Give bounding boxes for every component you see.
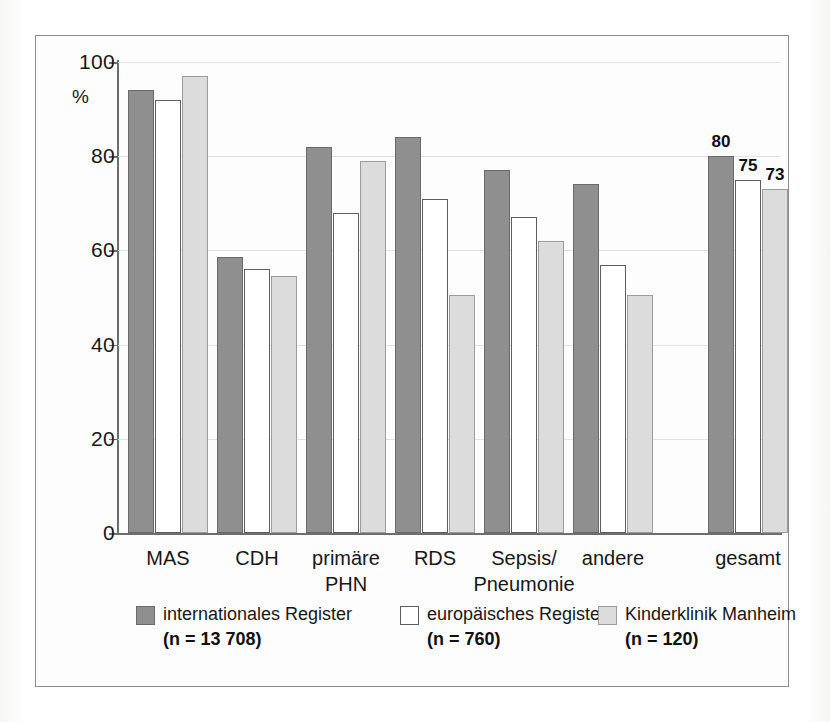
legend-sample-size: (n = 120) <box>625 629 699 650</box>
bar <box>271 276 297 533</box>
legend-label: internationales Register <box>163 604 352 625</box>
y-axis-tick-label: 40 <box>55 333 115 357</box>
x-axis-tick-label: gesamt <box>668 545 828 571</box>
bar <box>182 76 208 533</box>
bar <box>538 241 564 533</box>
bar-value-label: 80 <box>712 132 731 152</box>
bar <box>422 199 448 533</box>
bar <box>155 100 181 533</box>
legend-swatch-icon <box>598 606 617 625</box>
bar <box>762 189 788 533</box>
legend-sample-size: (n = 760) <box>427 629 501 650</box>
bar <box>360 161 386 533</box>
bar <box>395 137 421 533</box>
plot-area: 020406080100 807573 <box>118 62 781 533</box>
legend-label: europäisches Register <box>427 604 606 625</box>
x-axis-line <box>117 533 782 535</box>
y-axis-unit-label: % <box>72 86 89 108</box>
bar <box>573 184 599 533</box>
y-axis-tick-label: 0 <box>55 521 115 545</box>
gridline <box>118 156 781 157</box>
y-axis-tick-label: 100 <box>55 50 115 74</box>
bar <box>484 170 510 533</box>
y-axis-tick-label: 20 <box>55 427 115 451</box>
y-axis-tick-label: 60 <box>55 238 115 262</box>
bar <box>511 217 537 533</box>
bar <box>306 147 332 533</box>
bar <box>217 257 243 533</box>
legend-sample-size: (n = 13 708) <box>163 629 262 650</box>
gridline <box>118 250 781 251</box>
bar <box>708 156 734 533</box>
bar <box>600 265 626 533</box>
bar-value-label: 75 <box>739 156 758 176</box>
bar <box>735 180 761 533</box>
y-axis-tick-label: 80 <box>55 144 115 168</box>
bar <box>333 213 359 533</box>
legend-swatch-icon <box>400 606 419 625</box>
bar <box>449 295 475 533</box>
bar <box>627 295 653 533</box>
gridline <box>118 62 781 63</box>
chart-legend: internationales Register(n = 13 708)euro… <box>118 604 718 662</box>
legend-swatch-icon <box>136 606 155 625</box>
legend-label: Kinderklinik Manheim <box>625 604 796 625</box>
bar-value-label: 73 <box>766 165 785 185</box>
bar <box>128 90 154 533</box>
figure-canvas: % 020406080100 807573 MASCDHprimäre PHNR… <box>0 0 830 722</box>
bar <box>244 269 270 533</box>
